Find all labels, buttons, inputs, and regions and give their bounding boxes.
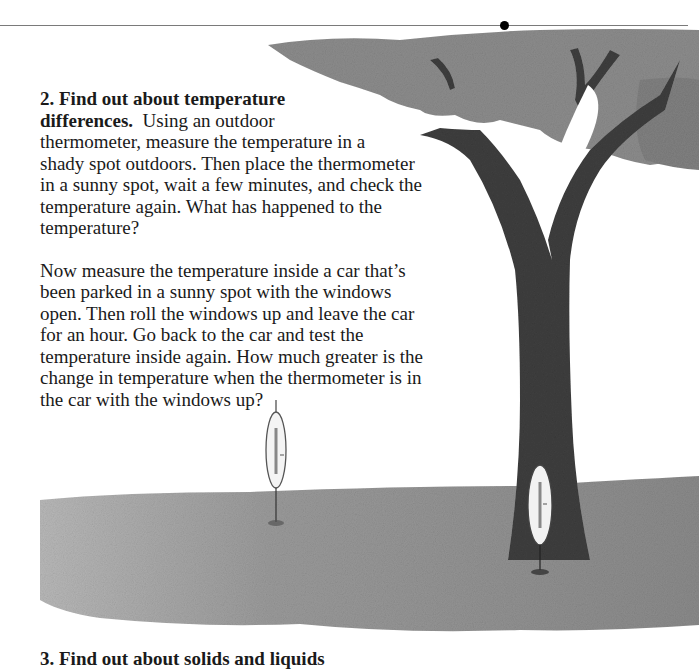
p2-line6: the car with the windows up? <box>40 389 263 410</box>
p1-line3: in a sunny spot, wait a few minutes, and… <box>40 174 422 195</box>
section2-heading-line1: 2. Find out about temperature <box>40 88 285 109</box>
p1-line5: temperature? <box>40 217 139 238</box>
section2-heading-line2: differences. <box>40 110 133 131</box>
p1-line4: temperature again. What has happened to … <box>40 196 382 217</box>
p2-line1: been parked in a sunny spot with the win… <box>40 281 391 302</box>
p2-line3: for an hour. Go back to the car and test… <box>40 324 363 345</box>
p2-line4: temperature inside again. How much great… <box>40 346 423 367</box>
p1-line1: thermometer, measure the temperature in … <box>40 131 365 152</box>
p2-line2: open. Then roll the windows up and leave… <box>40 303 414 324</box>
p2-line0: Now measure the temperature inside a car… <box>40 260 406 281</box>
p1-line2: shady spot outdoors. Then place the ther… <box>40 153 415 174</box>
activity-text: 2. Find out about temperature difference… <box>40 88 460 431</box>
section3-heading-clipped: 3. Find out about solids and liquids <box>40 648 325 669</box>
p1-line0: Using an outdoor <box>143 110 275 131</box>
section2-paragraph1: 2. Find out about temperature difference… <box>40 88 460 239</box>
grass <box>40 476 699 631</box>
section2-paragraph2: Now measure the temperature inside a car… <box>40 260 460 411</box>
p2-line5: change in temperature when the thermomet… <box>40 367 421 388</box>
